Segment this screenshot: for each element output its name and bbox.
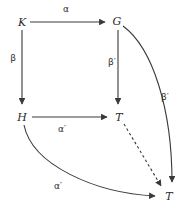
node-t-bottom-right: T [165, 191, 172, 202]
commutative-diagram: K G H T T α β β′ α′ β′ α′ [0, 0, 185, 212]
node-t-middle: T [115, 112, 122, 123]
edge-label-beta-prime-vertical: β′ [108, 58, 116, 67]
diagram-canvas [0, 0, 185, 212]
node-k: K [18, 17, 26, 28]
node-h: H [17, 112, 27, 123]
edge-label-alpha-prime-curve: α′ [54, 182, 62, 191]
edge-label-alpha-prime-horizontal: α′ [58, 125, 66, 134]
edge-label-beta-prime-curve: β′ [161, 93, 169, 102]
node-g: G [113, 16, 122, 27]
edge-h-to-t2 [24, 125, 155, 196]
edge-g-to-t2 [123, 26, 172, 182]
edge-label-beta: β [10, 54, 16, 63]
edge-t1-to-t2 [124, 124, 161, 186]
edge-label-alpha: α [63, 5, 69, 14]
